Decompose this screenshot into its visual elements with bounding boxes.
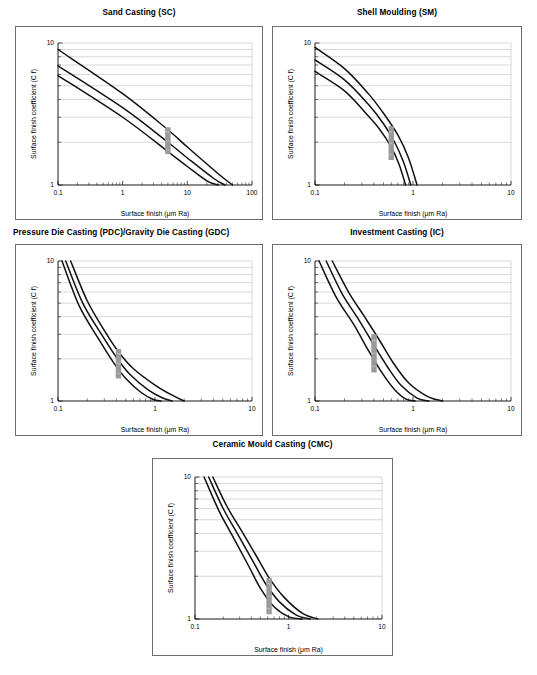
svg-text:Surface finish coefficient (C: Surface finish coefficient (C f) xyxy=(287,286,295,376)
svg-text:1: 1 xyxy=(166,149,170,151)
svg-text:10: 10 xyxy=(507,189,515,196)
svg-text:1: 1 xyxy=(267,607,271,609)
svg-text:2: 2 xyxy=(166,140,170,142)
svg-text:Surface finish (μm Ra): Surface finish (μm Ra) xyxy=(379,426,448,434)
svg-text:100: 100 xyxy=(246,189,257,196)
chart-investment-casting: 1100.1110321Surface finish (μm Ra)Surfac… xyxy=(273,245,521,435)
panel-title-pressure-gravity-die-casting: Pressure Die Casting (PDC)/Gravity Die C… xyxy=(13,228,265,238)
svg-text:10: 10 xyxy=(507,405,515,412)
panel-box-sand-casting: 1100.1110100321Surface finish (μm Ra)Sur… xyxy=(15,26,263,220)
svg-text:0.1: 0.1 xyxy=(53,189,62,196)
panel-shell-moulding: Shell Moulding (SM) 1100.1110321Surface … xyxy=(272,8,522,220)
panel-investment-casting: Investment Casting (IC) 1100.1110321Surf… xyxy=(272,228,522,436)
svg-text:10: 10 xyxy=(304,257,312,264)
figure-surface-finish-charts: Sand Casting (SC) 1100.1110100321Surface… xyxy=(0,0,537,675)
svg-text:Surface finish coefficient (C: Surface finish coefficient (C f) xyxy=(30,286,38,376)
svg-text:2: 2 xyxy=(267,595,271,597)
svg-text:1: 1 xyxy=(307,397,311,404)
svg-text:1: 1 xyxy=(153,405,157,412)
svg-text:1: 1 xyxy=(117,372,121,374)
svg-text:10: 10 xyxy=(378,623,386,630)
svg-text:1: 1 xyxy=(411,189,415,196)
svg-text:0.1: 0.1 xyxy=(53,405,62,412)
svg-text:10: 10 xyxy=(304,39,312,46)
chart-shell-moulding: 1100.1110321Surface finish (μm Ra)Surfac… xyxy=(273,27,521,219)
svg-text:1: 1 xyxy=(287,623,291,630)
svg-text:1: 1 xyxy=(50,397,54,404)
svg-text:3: 3 xyxy=(372,339,376,341)
panel-sand-casting: Sand Casting (SC) 1100.1110100321Surface… xyxy=(15,8,263,220)
svg-text:2: 2 xyxy=(389,142,393,144)
svg-text:10: 10 xyxy=(248,405,256,412)
svg-text:Surface finish (μm Ra): Surface finish (μm Ra) xyxy=(121,426,190,434)
svg-text:1: 1 xyxy=(307,181,311,188)
svg-text:2: 2 xyxy=(117,363,121,365)
svg-text:3: 3 xyxy=(389,131,393,133)
svg-text:1: 1 xyxy=(372,365,376,367)
panel-box-shell-moulding: 1100.1110321Surface finish (μm Ra)Surfac… xyxy=(272,26,522,220)
svg-text:3: 3 xyxy=(117,353,121,355)
svg-text:Surface finish (μm Ra): Surface finish (μm Ra) xyxy=(379,210,448,218)
chart-ceramic-mould-casting: 1100.1110321Surface finish (μm Ra)Surfac… xyxy=(153,459,392,655)
svg-text:0.1: 0.1 xyxy=(310,405,319,412)
svg-text:Surface finish (μm Ra): Surface finish (μm Ra) xyxy=(254,646,323,654)
panel-title-sand-casting: Sand Casting (SC) xyxy=(15,8,263,18)
panel-title-shell-moulding: Shell Moulding (SM) xyxy=(272,8,522,18)
panel-box-investment-casting: 1100.1110321Surface finish (μm Ra)Surfac… xyxy=(272,244,522,436)
svg-text:3: 3 xyxy=(166,131,170,133)
panel-ceramic-mould-casting: Ceramic Mould Casting (CMC) 1100.1110321… xyxy=(152,440,393,656)
svg-text:10: 10 xyxy=(47,39,55,46)
svg-text:10: 10 xyxy=(47,257,55,264)
svg-text:Surface finish (μm Ra): Surface finish (μm Ra) xyxy=(121,210,190,218)
svg-text:Surface finish coefficient (C: Surface finish coefficient (C f) xyxy=(167,503,175,593)
svg-text:3: 3 xyxy=(267,583,271,585)
panel-pressure-gravity-die-casting: Pressure Die Casting (PDC)/Gravity Die C… xyxy=(15,228,263,436)
svg-text:1: 1 xyxy=(187,615,191,622)
svg-text:Surface finish coefficient (C: Surface finish coefficient (C f) xyxy=(30,69,38,159)
svg-text:0.1: 0.1 xyxy=(190,623,199,630)
panel-box-ceramic-mould-casting: 1100.1110321Surface finish (μm Ra)Surfac… xyxy=(152,458,393,656)
svg-text:10: 10 xyxy=(184,189,192,196)
chart-pressure-gravity-die-casting: 1100.1110321Surface finish (μm Ra)Surfac… xyxy=(16,245,262,435)
panel-box-pressure-gravity-die-casting: 1100.1110321Surface finish (μm Ra)Surfac… xyxy=(15,244,263,436)
svg-text:0.1: 0.1 xyxy=(310,189,319,196)
svg-text:1: 1 xyxy=(50,181,54,188)
panel-title-ceramic-mould-casting: Ceramic Mould Casting (CMC) xyxy=(152,440,393,450)
svg-text:2: 2 xyxy=(372,352,376,354)
chart-sand-casting: 1100.1110100321Surface finish (μm Ra)Sur… xyxy=(16,27,262,219)
svg-text:Surface finish coefficient (C: Surface finish coefficient (C f) xyxy=(287,69,295,159)
svg-text:10: 10 xyxy=(184,473,192,480)
panel-title-investment-casting: Investment Casting (IC) xyxy=(272,228,522,238)
svg-text:1: 1 xyxy=(121,189,125,196)
svg-text:1: 1 xyxy=(411,405,415,412)
svg-text:1: 1 xyxy=(389,153,393,155)
